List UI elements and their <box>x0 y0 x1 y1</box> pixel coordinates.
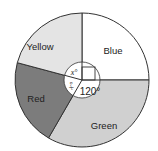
label-yellow: Yellow <box>26 41 53 52</box>
label-green: Green <box>91 120 117 131</box>
angle-label-yellow: x° <box>70 68 79 77</box>
angle-label-green: 120° <box>80 86 101 97</box>
label-red: Red <box>27 93 44 104</box>
label-blue: Blue <box>103 45 122 56</box>
pie-chart: Yellow Blue Red Green x° x° 120° <box>0 0 158 151</box>
